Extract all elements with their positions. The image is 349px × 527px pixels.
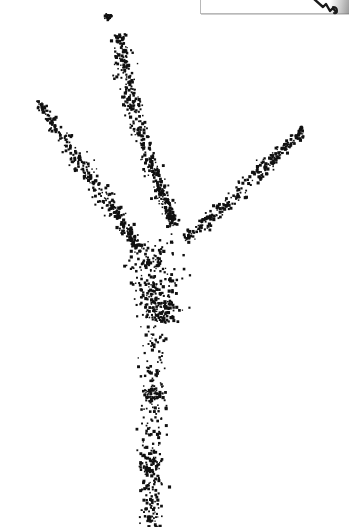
figure-page: Stippled branching dot-density figure Bl… bbox=[0, 0, 349, 527]
stipple-scatter-canvas bbox=[0, 0, 349, 527]
cursor-mark-icon bbox=[312, 0, 342, 16]
